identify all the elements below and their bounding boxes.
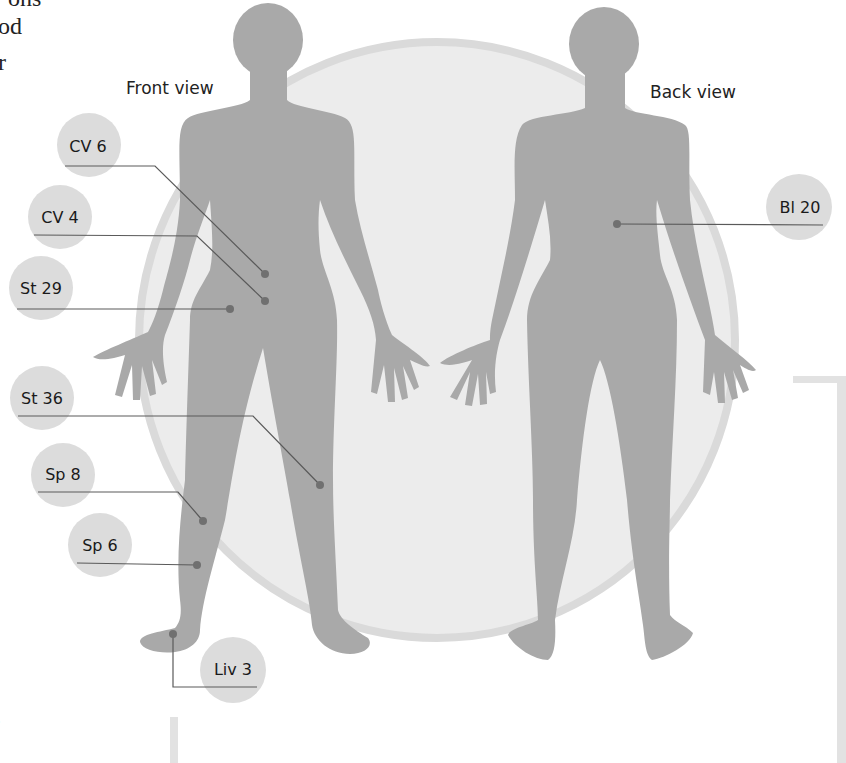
page-text-fragments: ons od r , bbox=[0, 0, 41, 727]
acupoint-label: St 36 bbox=[21, 389, 63, 408]
acupoint-diagram: ons od r , Front view Back view CV 6 CV … bbox=[0, 0, 846, 763]
bracket-rule-right bbox=[793, 376, 846, 763]
text-fragment-line-2: od bbox=[0, 13, 22, 39]
point-marker bbox=[169, 630, 177, 638]
text-fragment-line-1: ons bbox=[8, 0, 41, 11]
acupoint-label: CV 4 bbox=[41, 208, 78, 227]
point-marker bbox=[261, 270, 269, 278]
acupoint-label: Sp 8 bbox=[45, 465, 81, 484]
point-marker bbox=[226, 305, 234, 313]
text-fragment-mark: , bbox=[0, 701, 1, 727]
back-view-label: Back view bbox=[650, 82, 736, 102]
point-marker bbox=[316, 481, 324, 489]
vertical-rule-left bbox=[170, 717, 178, 763]
point-marker bbox=[261, 297, 269, 305]
acupoint-label: Bl 20 bbox=[780, 198, 821, 217]
acupoint-label: Liv 3 bbox=[214, 660, 252, 679]
acupoint-label: CV 6 bbox=[69, 137, 106, 156]
text-fragment-line-3: r bbox=[0, 49, 6, 75]
point-marker bbox=[193, 561, 201, 569]
acupoint-label: St 29 bbox=[20, 279, 62, 298]
front-view-label: Front view bbox=[126, 78, 214, 98]
acupoint-label: Sp 6 bbox=[82, 536, 118, 555]
point-marker bbox=[613, 220, 621, 228]
point-marker bbox=[199, 517, 207, 525]
